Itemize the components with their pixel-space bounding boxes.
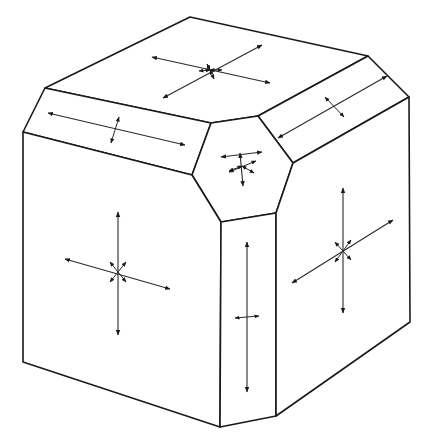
beveled-cube-diagram bbox=[0, 0, 429, 447]
crystal-faces bbox=[23, 17, 410, 427]
front-left-face bbox=[23, 132, 221, 427]
front-bevel bbox=[220, 213, 276, 427]
